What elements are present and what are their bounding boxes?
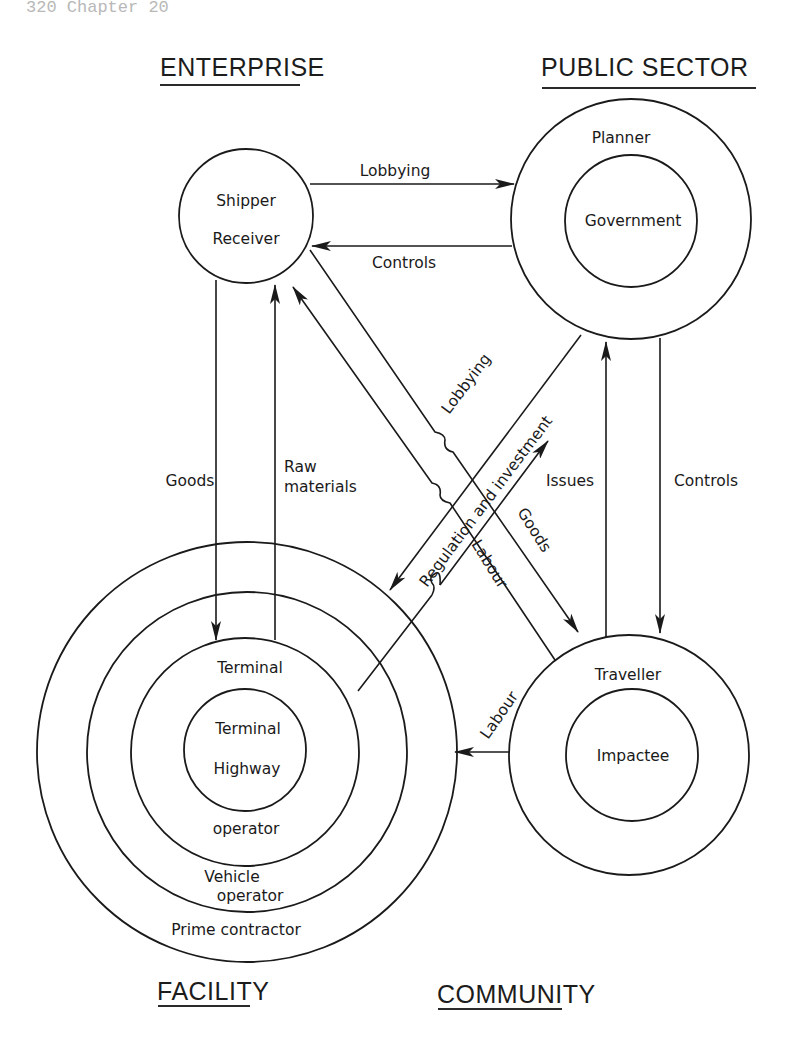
goods-left-label: Goods: [166, 472, 215, 490]
flow-lobbying-to-public: Lobbying: [310, 162, 514, 184]
community-title-group: COMMUNITY: [437, 980, 596, 1009]
public-sector-node: Planner Government: [511, 99, 751, 339]
flow-labour-to-facility: Labour: [455, 688, 522, 752]
controls-top-label: Controls: [372, 254, 436, 272]
materials-label: materials: [284, 478, 357, 496]
terminal-highway-ring: [184, 689, 306, 811]
highway-inner-label: Highway: [214, 760, 281, 778]
flow-issues-to-public: Issues: [546, 342, 606, 637]
facility-title-group: FACILITY: [157, 977, 269, 1006]
lobbying-diagonal-arrow: [358, 441, 548, 691]
planner-label: Planner: [592, 129, 651, 147]
enterprise-title-group: ENTERPRISE: [160, 53, 325, 85]
flow-controls-to-enterprise: Controls: [312, 246, 512, 272]
prime-contractor-label: Prime contractor: [171, 921, 301, 939]
facility-node: Terminal Terminal Highway operator Vehic…: [37, 542, 457, 962]
government-label: Government: [585, 212, 682, 230]
impactee-label: Impactee: [597, 747, 670, 765]
vehicle-operator-label: operator: [217, 887, 284, 905]
vehicle-label: Vehicle: [204, 868, 259, 886]
traveller-label: Traveller: [594, 666, 662, 684]
terminal-operator-top-label: Terminal: [216, 659, 283, 677]
public-sector-title: PUBLIC SECTOR: [541, 53, 748, 81]
receiver-label: Receiver: [212, 230, 280, 248]
lobbying-top-label: Lobbying: [360, 162, 431, 180]
enterprise-title: ENTERPRISE: [160, 53, 325, 81]
controls-right-label: Controls: [674, 472, 738, 490]
flow-goods-to-facility: Goods: [166, 280, 216, 640]
issues-label: Issues: [546, 472, 594, 490]
enterprise-node: Shipper Receiver: [179, 149, 313, 283]
community-node: Traveller Impactee: [509, 635, 749, 875]
terminal-inner-label: Terminal: [214, 720, 281, 738]
flow-controls-to-community: Controls: [660, 338, 738, 633]
lobbying-diagonal-label: Lobbying: [438, 350, 495, 417]
flow-raw-materials-to-enterprise: Raw materials: [275, 285, 357, 640]
diagram-canvas: 320 Chapter 20 ENTERPRISE PUBLIC SECTOR …: [0, 0, 792, 1062]
shipper-receiver-circle: [179, 149, 313, 283]
community-title: COMMUNITY: [437, 980, 596, 1008]
shipper-label: Shipper: [216, 192, 276, 210]
facility-title: FACILITY: [157, 977, 269, 1005]
labour-diagonal-label: Labour: [468, 537, 512, 593]
page-header: 320 Chapter 20: [26, 0, 169, 17]
terminal-operator-bottom-label: operator: [213, 820, 280, 838]
public-sector-title-group: PUBLIC SECTOR: [541, 53, 756, 88]
raw-label: Raw: [284, 458, 317, 476]
